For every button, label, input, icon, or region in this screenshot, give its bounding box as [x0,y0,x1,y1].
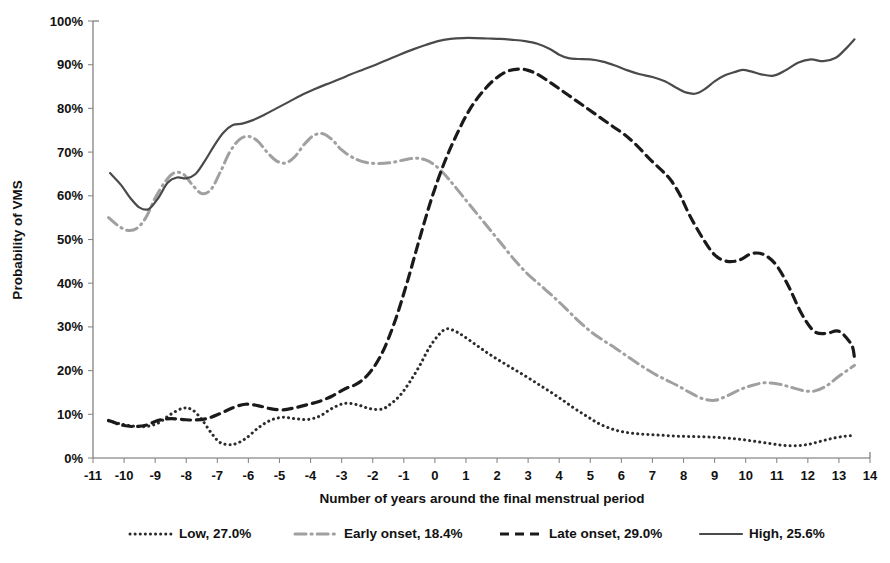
y-tick-label: 40% [57,276,83,291]
legend-label: Early onset, 18.4% [344,526,463,541]
x-tick-label: 12 [801,468,815,483]
x-tick-label: 10 [738,468,752,483]
y-tick-label: 80% [57,101,83,116]
y-tick-label: 20% [57,363,83,378]
y-tick-label: 60% [57,188,83,203]
y-tick-label: 50% [57,232,83,247]
legend-item: Low, 27.0% [130,526,251,541]
legend-label: Late onset, 29.0% [549,526,662,541]
x-tick-label: -4 [305,468,317,483]
y-tick-label: 0% [64,451,83,466]
y-axis-title: Probability of VMS [10,180,25,299]
x-tick-label: 2 [493,468,500,483]
x-tick-label: 6 [618,468,625,483]
axis-lines [93,21,870,458]
x-tick-label: -5 [274,468,286,483]
y-tick-label: 30% [57,319,83,334]
x-tick-label: -3 [336,468,348,483]
x-tick-label: 11 [770,468,784,483]
x-tick-label: 4 [556,468,564,483]
x-tick-label: 7 [649,468,656,483]
x-tick-label: -2 [367,468,379,483]
x-tick-label: -8 [180,468,192,483]
legend-item: Early onset, 18.4% [295,526,463,541]
y-axis-tick-labels: 0%10%20%30%40%50%60%70%80%90%100% [50,14,84,466]
series-line-late-onset [109,69,855,427]
y-tick-label: 100% [50,14,84,29]
legend-item: High, 25.6% [700,526,825,541]
x-tick-label: 9 [711,468,718,483]
x-tick-label: 0 [431,468,438,483]
vms-probability-line-chart: 0%10%20%30%40%50%60%70%80%90%100% -11-10… [0,0,890,563]
x-axis-title: Number of years around the final menstru… [320,491,645,506]
x-tick-label: -11 [84,468,102,483]
legend-item: Late onset, 29.0% [500,526,662,541]
y-tick-label: 10% [57,407,83,422]
series-line-high [110,38,854,210]
series-line-early-onset [109,133,855,400]
legend-label: Low, 27.0% [179,526,251,541]
chart-container: 0%10%20%30%40%50%60%70%80%90%100% -11-10… [0,0,890,563]
x-tick-label: -9 [149,468,161,483]
x-tick-label: 13 [832,468,846,483]
y-tick-label: 90% [57,57,83,72]
x-tick-label: 5 [587,468,594,483]
chart-legend: Low, 27.0%Early onset, 18.4%Late onset, … [130,526,825,541]
x-tick-label: -10 [115,468,134,483]
series-lines [109,38,855,446]
x-tick-label: -6 [243,468,255,483]
x-tick-label: 14 [863,468,878,483]
tick-marks [88,21,870,463]
x-tick-label: 8 [680,468,687,483]
x-tick-label: 1 [462,468,469,483]
y-tick-label: 70% [57,145,83,160]
legend-label: High, 25.6% [749,526,825,541]
x-tick-label: -7 [212,468,224,483]
x-axis-tick-labels: -11-10-9-8-7-6-5-4-3-2-10123456789101112… [84,468,878,483]
x-tick-label: -1 [398,468,410,483]
x-tick-label: 3 [525,468,532,483]
